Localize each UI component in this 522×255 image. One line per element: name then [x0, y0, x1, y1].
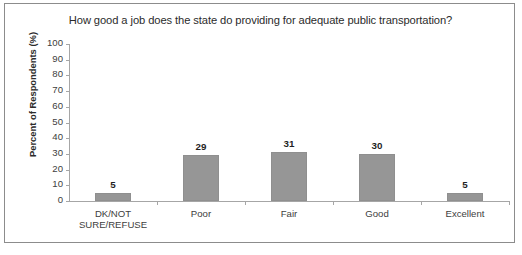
plot-area — [69, 44, 509, 201]
bar-value-label: 5 — [435, 179, 495, 190]
x-axis-category-label: Good — [333, 208, 421, 219]
bar[interactable] — [271, 152, 307, 201]
bar[interactable] — [95, 193, 131, 201]
bar-value-label: 5 — [83, 179, 143, 190]
chart-frame: How good a job does the state do providi… — [4, 3, 515, 243]
x-axis-line — [69, 201, 510, 202]
x-axis-tick-mark — [245, 201, 246, 205]
x-axis-tick-mark — [157, 201, 158, 205]
clipped-caption — [30, 246, 490, 255]
y-axis-tick-group: 1009080706050403020100 — [5, 4, 69, 202]
y-axis-tick-label: 90 — [52, 53, 63, 64]
chart-title: How good a job does the state do providi… — [5, 14, 516, 26]
y-axis-tick-label: 50 — [52, 116, 63, 127]
bar[interactable] — [447, 193, 483, 201]
x-axis-category-label: Poor — [157, 208, 245, 219]
x-axis-tick-mark — [509, 201, 510, 205]
bar[interactable] — [359, 154, 395, 201]
x-axis-tick-mark — [333, 201, 334, 205]
y-axis-tick-label: 10 — [52, 178, 63, 189]
y-axis-tick-label: 100 — [47, 37, 63, 48]
y-axis-tick-label: 0 — [58, 194, 63, 205]
x-axis-tick-mark — [421, 201, 422, 205]
y-axis-tick-label: 60 — [52, 100, 63, 111]
bar-value-label: 29 — [171, 141, 231, 152]
y-axis-tick-label: 40 — [52, 131, 63, 142]
y-axis-tick-label: 30 — [52, 147, 63, 158]
y-axis-tick-label: 20 — [52, 163, 63, 174]
y-axis-tick-label: 70 — [52, 84, 63, 95]
x-axis-category-label: DK/NOT SURE/REFUSE — [69, 208, 157, 230]
bar[interactable] — [183, 155, 219, 201]
x-axis-category-label: Excellent — [421, 208, 509, 219]
y-axis-tick-label: 80 — [52, 68, 63, 79]
x-axis-category-label: Fair — [245, 208, 333, 219]
bar-value-label: 30 — [347, 140, 407, 151]
bar-value-label: 31 — [259, 138, 319, 149]
